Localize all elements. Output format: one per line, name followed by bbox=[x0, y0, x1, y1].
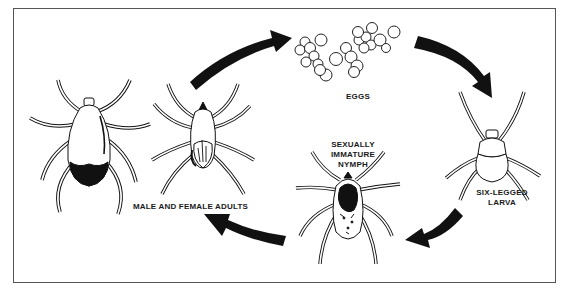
larva-illustration bbox=[446, 92, 540, 200]
nymph-label: SEXUALLY IMMATURE NYMPH bbox=[318, 140, 388, 170]
eggs-label: EGGS bbox=[333, 92, 383, 102]
adult-tick-large-illustration bbox=[30, 80, 150, 214]
eggs-illustration bbox=[295, 23, 400, 82]
adults-label: MALE AND FEMALE ADULTS bbox=[128, 202, 253, 212]
larva-label-line1: SIX-LEGGED bbox=[470, 188, 534, 198]
nymph-label-line2: IMMATURE bbox=[318, 150, 388, 160]
arrow-larva-to-nymph bbox=[405, 208, 463, 248]
nymph-label-line3: NYMPH bbox=[318, 160, 388, 170]
arrow-adults-to-eggs bbox=[190, 30, 292, 90]
arrow-eggs-to-larva bbox=[414, 36, 492, 98]
larva-label: SIX-LEGGED LARVA bbox=[470, 188, 534, 208]
nymph-label-line1: SEXUALLY bbox=[318, 140, 388, 150]
life-cycle-artwork bbox=[0, 0, 568, 295]
arrow-nymph-to-adults bbox=[204, 214, 286, 246]
adult-tick-small-illustration bbox=[152, 84, 254, 194]
larva-label-line2: LARVA bbox=[470, 198, 534, 208]
